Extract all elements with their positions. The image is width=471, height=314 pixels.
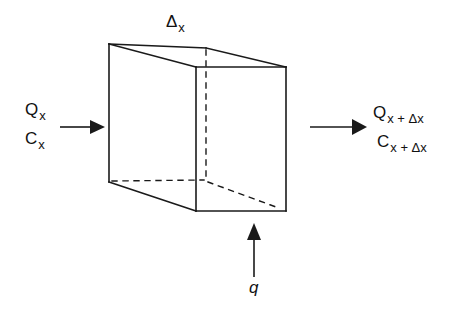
inflow-conc-subscript: x — [38, 137, 45, 152]
inflow-flow-subscript: x — [39, 108, 46, 123]
inflow-flow-main: Q — [25, 100, 38, 119]
outflow-conc-main: C — [377, 132, 389, 151]
lateral-inflow-arrow-icon — [247, 223, 261, 277]
box-visible-edges — [109, 44, 286, 211]
outflow-arrow-icon — [310, 119, 367, 135]
delta-x-label: Δx — [166, 13, 185, 30]
lateral-inflow-label: q — [249, 279, 258, 296]
control-volume-diagram — [0, 0, 471, 314]
delta-subscript: x — [178, 20, 185, 35]
outflow-flow-main: Q — [373, 103, 386, 122]
inflow-arrow-icon — [60, 120, 105, 134]
inflow-flow-label: Qx — [25, 101, 46, 118]
outflow-flow-subscript: x + Δx — [387, 111, 424, 126]
outflow-conc-label: Cx + Δx — [377, 133, 427, 150]
inflow-conc-label: Cx — [25, 130, 45, 147]
box-hidden-edges — [112, 50, 276, 207]
outflow-conc-subscript: x + Δx — [390, 140, 427, 155]
q-symbol: q — [249, 278, 258, 297]
outflow-flow-label: Qx + Δx — [373, 104, 424, 121]
inflow-conc-main: C — [25, 129, 37, 148]
delta-symbol: Δ — [166, 12, 177, 31]
